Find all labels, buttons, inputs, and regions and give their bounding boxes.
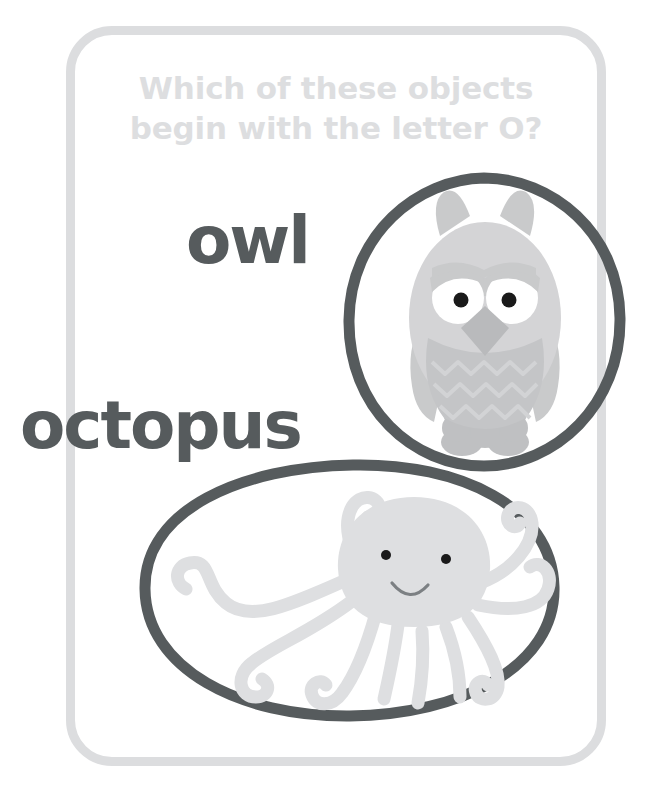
word-label-octopus[interactable]: octopus: [20, 393, 301, 459]
octopus-head: [338, 497, 490, 627]
owl-pupil-left: [454, 293, 469, 308]
owl-illustration-group[interactable]: [336, 170, 636, 480]
word-label-owl[interactable]: owl: [186, 208, 309, 274]
owl-icon: [409, 190, 561, 456]
worksheet-page: Which of these objects begin with the le…: [0, 0, 661, 801]
page-title: Which of these objects begin with the le…: [66, 68, 606, 148]
octopus-illustration-group[interactable]: [130, 455, 575, 730]
page-title-line-2: begin with the letter O?: [130, 110, 542, 146]
octopus-eye-left: [381, 550, 391, 560]
page-title-line-1: Which of these objects: [139, 70, 533, 106]
owl-pupil-right: [502, 293, 517, 308]
octopus-eye-right: [441, 554, 451, 564]
